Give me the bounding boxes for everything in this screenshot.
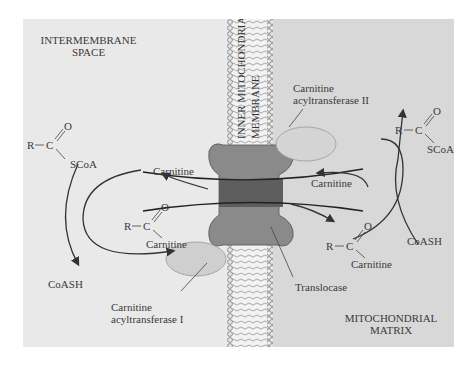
cat2-label-line: Carnitine — [293, 82, 369, 94]
cat2-pointer — [289, 109, 303, 127]
left-acylcoa-r: R — [27, 139, 34, 151]
region-label-line: INTERMEMBRANE — [31, 34, 146, 46]
cat1-label: Carnitine acyltransferase I — [111, 301, 183, 325]
cat1-label-line: acyltransferase I — [111, 313, 183, 325]
right-acylcarnitine-group: Carnitine — [351, 258, 392, 270]
intermembrane-space-label: INTERMEMBRANE SPACE — [31, 34, 146, 58]
translocase-label: Translocase — [295, 281, 347, 293]
carnitine-shuttle-diagram: INNER MITOCHONDRIAL MEMBRANE INTERMEMBRA… — [23, 19, 454, 347]
left-acylcoa-o: O — [64, 120, 72, 132]
cat2-enzyme — [276, 127, 336, 161]
region-label-line: SPACE — [31, 46, 146, 58]
left-acylcoa-c: C — [46, 139, 53, 151]
right-coash-label: CoASH — [407, 235, 442, 247]
region-label-line: MITOCHONDRIAL — [341, 312, 441, 324]
right-acylcoa-o: O — [433, 105, 441, 117]
left-acylcarnitine-r: R — [124, 220, 131, 232]
right-acylcarnitine-o: O — [364, 220, 372, 232]
left-acylcarnitine-c: C — [143, 220, 150, 232]
left-coash-label: CoASH — [48, 278, 83, 290]
svg-text:INNER MITOCHONDRIAL: INNER MITOCHONDRIAL — [235, 19, 247, 139]
translocase-protein — [143, 144, 363, 246]
coash-release-arrow — [66, 164, 79, 264]
left-acylcoa-scoa: SCoA — [70, 158, 97, 170]
right-carnitine-label: Carnitine — [311, 177, 352, 189]
right-acylcarnitine-c: C — [346, 240, 353, 252]
left-acylcarnitine-o: O — [161, 201, 169, 213]
diagram-graphics: INNER MITOCHONDRIAL MEMBRANE — [23, 19, 454, 347]
inner-membrane-lower — [227, 239, 273, 347]
cat2-label: Carnitine acyltransferase II — [293, 82, 369, 106]
svg-text:MEMBRANE: MEMBRANE — [249, 75, 261, 139]
left-carnitine-label: Carnitine — [153, 165, 194, 177]
right-acylcoa-scoa: SCoA — [427, 143, 454, 155]
left-acylcarnitine-group: Carnitine — [146, 238, 187, 250]
right-acylcoa-r: R — [395, 124, 402, 136]
right-acylcoa-c: C — [415, 124, 422, 136]
cat2-label-line: acyltransferase II — [293, 94, 369, 106]
mitochondrial-matrix-label: MITOCHONDRIAL MATRIX — [341, 312, 441, 336]
cat1-label-line: Carnitine — [111, 301, 183, 313]
right-acylcarnitine-r: R — [326, 240, 333, 252]
region-label-line: MATRIX — [341, 324, 441, 336]
